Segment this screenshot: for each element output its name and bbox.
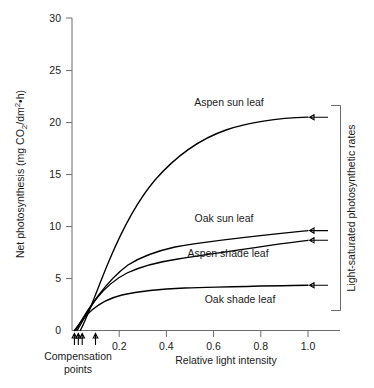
- x-tick-label-0.6: 0.6: [206, 340, 221, 352]
- y-axis-title-prefix: Net photosynthesis (mg CO: [14, 129, 26, 258]
- series-label-aspen-sun-leaf: Aspen sun leaf: [194, 96, 264, 108]
- compensation-points-label-line1: Compensation: [44, 350, 112, 362]
- series-label-oak-shade-leaf: Oak shade leaf: [205, 293, 276, 305]
- x-tick-label-0.2: 0.2: [112, 340, 127, 352]
- photosynthesis-light-response-chart: 0 5 10 15 20 25 30 0.2 0.4 0.6 0.8 1.0 R…: [0, 0, 374, 388]
- x-tick-label-0.8: 0.8: [253, 340, 268, 352]
- y-tick-label-0: 0: [55, 324, 61, 336]
- y-tick-label-5: 5: [55, 272, 61, 284]
- x-axis-title: Relative light intensity: [175, 354, 277, 366]
- y-axis-title-mid: /dm: [14, 107, 26, 125]
- y-tick-label-25: 25: [49, 64, 61, 76]
- bracket-label: Light-saturated photosynthetic rates: [345, 125, 357, 292]
- y-tick-label-20: 20: [49, 116, 61, 128]
- y-tick-label-10: 10: [49, 220, 61, 232]
- compensation-points-label-line2: points: [64, 363, 92, 375]
- x-tick-label-0.4: 0.4: [159, 340, 174, 352]
- series-label-oak-sun-leaf: Oak sun leaf: [195, 212, 254, 224]
- x-tick-label-1.0: 1.0: [301, 340, 316, 352]
- y-tick-label-15: 15: [49, 168, 61, 180]
- y-axis-title-suffix: •h): [14, 90, 26, 103]
- y-tick-label-30: 30: [49, 12, 61, 24]
- series-label-aspen-shade-leaf: Aspen shade leaf: [187, 247, 268, 259]
- bracket-label-group: Light-saturated photosynthetic rates: [345, 125, 357, 292]
- chart-svg: 0 5 10 15 20 25 30 0.2 0.4 0.6 0.8 1.0 R…: [0, 0, 374, 388]
